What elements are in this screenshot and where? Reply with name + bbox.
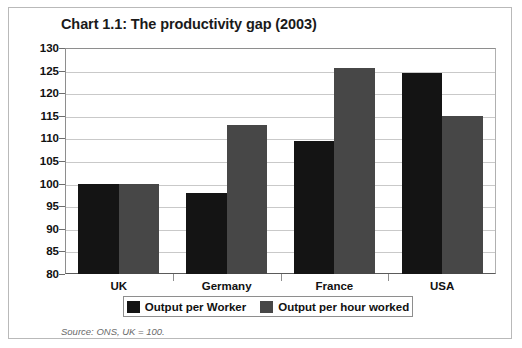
y-axis-tick-mark bbox=[59, 274, 65, 275]
x-axis-label-uk: UK bbox=[59, 280, 179, 292]
legend-swatch-icon bbox=[127, 301, 140, 313]
legend-entry-0: Output per Worker bbox=[127, 301, 246, 313]
y-axis-tick-mark bbox=[59, 251, 65, 252]
y-axis-tick-label: 100 bbox=[19, 178, 59, 190]
bar-france-series-0 bbox=[294, 141, 335, 274]
legend-swatch-icon bbox=[260, 301, 273, 313]
y-axis-tick-label: 80 bbox=[19, 268, 59, 280]
bar-france-series-1 bbox=[334, 68, 375, 274]
bar-usa-series-0 bbox=[402, 73, 443, 274]
y-axis-tick-label: 105 bbox=[19, 155, 59, 167]
legend-entry-1: Output per hour worked bbox=[260, 301, 409, 313]
y-axis-tick-mark bbox=[59, 48, 65, 49]
legend-label: Output per Worker bbox=[145, 301, 246, 313]
y-axis-tick-label: 120 bbox=[19, 87, 59, 99]
bar-germany-series-1 bbox=[227, 125, 268, 274]
y-axis-tick-mark bbox=[59, 206, 65, 207]
x-axis-label-france: France bbox=[274, 280, 394, 292]
y-axis-tick-label: 95 bbox=[19, 200, 59, 212]
y-axis-tick-mark bbox=[59, 229, 65, 230]
chart-figure: Chart 1.1: The productivity gap (2003) 1… bbox=[8, 7, 512, 339]
y-axis-tick-label: 85 bbox=[19, 245, 59, 257]
y-axis-tick-mark bbox=[59, 71, 65, 72]
y-axis-tick-mark bbox=[59, 116, 65, 117]
y-axis-tick-label: 90 bbox=[19, 223, 59, 235]
y-axis-tick-mark bbox=[59, 161, 65, 162]
y-axis-tick-label: 115 bbox=[19, 110, 59, 122]
y-axis-tick-label: 130 bbox=[19, 42, 59, 54]
bar-germany-series-0 bbox=[186, 193, 227, 274]
bar-uk-series-1 bbox=[119, 184, 160, 274]
y-axis-tick-mark bbox=[59, 184, 65, 185]
chart-title: Chart 1.1: The productivity gap (2003) bbox=[61, 16, 317, 32]
y-axis-tick-label: 110 bbox=[19, 132, 59, 144]
legend-label: Output per hour worked bbox=[278, 301, 409, 313]
source-note: Source: ONS, UK = 100. bbox=[61, 326, 165, 337]
y-axis-tick-label: 125 bbox=[19, 65, 59, 77]
x-axis-label-germany: Germany bbox=[167, 280, 287, 292]
chart-legend: Output per WorkerOutput per hour worked bbox=[123, 296, 413, 317]
bar-usa-series-1 bbox=[442, 116, 483, 274]
bar-uk-series-0 bbox=[78, 184, 119, 274]
x-axis-label-usa: USA bbox=[382, 280, 502, 292]
y-axis-tick-mark bbox=[59, 138, 65, 139]
y-axis-tick-mark bbox=[59, 93, 65, 94]
